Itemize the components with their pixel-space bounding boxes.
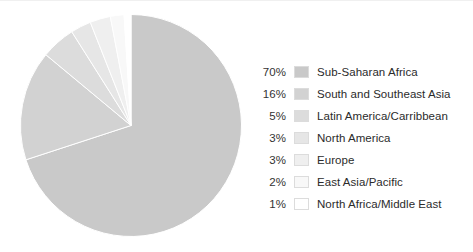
legend-percent: 3% xyxy=(250,154,286,166)
legend-label: North Africa/Middle East xyxy=(317,198,442,210)
legend-color-swatch xyxy=(294,154,309,166)
legend-percent: 2% xyxy=(250,176,286,188)
legend-item[interactable]: 3%Europe xyxy=(250,149,468,171)
pie-chart-svg xyxy=(20,14,242,237)
legend-percent: 3% xyxy=(250,132,286,144)
legend-label: Latin America/Carribbean xyxy=(317,110,448,122)
pie-slice-group xyxy=(20,15,241,237)
legend-label: North America xyxy=(317,132,391,144)
legend-color-swatch xyxy=(294,198,309,210)
legend-item[interactable]: 3%North America xyxy=(250,127,468,149)
legend-color-swatch xyxy=(294,66,309,78)
legend-label: Sub-Saharan Africa xyxy=(317,66,418,78)
legend-label: South and Southeast Asia xyxy=(317,88,451,100)
pie-chart-figure: 70%Sub-Saharan Africa16%South and Southe… xyxy=(0,0,473,252)
legend-label: East Asia/Pacific xyxy=(317,176,403,188)
legend-label: Europe xyxy=(317,154,354,166)
legend-item[interactable]: 70%Sub-Saharan Africa xyxy=(250,61,468,83)
chart-legend: 70%Sub-Saharan Africa16%South and Southe… xyxy=(250,61,468,215)
legend-item[interactable]: 1%North Africa/Middle East xyxy=(250,193,468,215)
legend-percent: 16% xyxy=(250,88,286,100)
legend-color-swatch xyxy=(294,176,309,188)
legend-item[interactable]: 16%South and Southeast Asia xyxy=(250,83,468,105)
legend-item[interactable]: 2%East Asia/Pacific xyxy=(250,171,468,193)
legend-percent: 5% xyxy=(250,110,286,122)
legend-percent: 70% xyxy=(250,66,286,78)
legend-color-swatch xyxy=(294,132,309,144)
legend-color-swatch xyxy=(294,110,309,122)
legend-percent: 1% xyxy=(250,198,286,210)
legend-item[interactable]: 5%Latin America/Carribbean xyxy=(250,105,468,127)
pie-chart-plot-area xyxy=(20,14,242,237)
legend-color-swatch xyxy=(294,88,309,100)
